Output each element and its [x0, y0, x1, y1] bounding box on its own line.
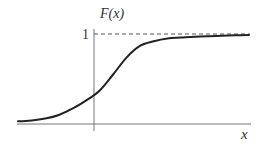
y-tick-label-one: 1: [82, 28, 89, 42]
cdf-curve: [18, 35, 249, 121]
y-axis-label: F(x): [100, 7, 124, 21]
cdf-chart: [0, 0, 265, 148]
x-axis-label: x: [241, 127, 248, 142]
